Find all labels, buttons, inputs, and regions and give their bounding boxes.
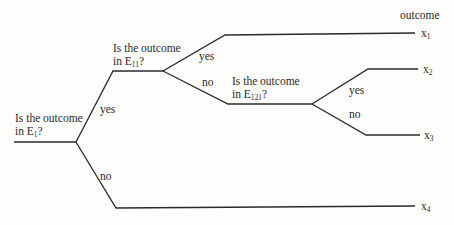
q1-no-branch — [76, 142, 415, 208]
outcome-x2: x2 — [423, 63, 433, 79]
question-e11-line1: Is the outcome — [113, 42, 181, 55]
question-e11-line2: in E11? — [113, 55, 181, 71]
question-e121-line2: in E121? — [232, 88, 300, 104]
q121-yes-branch — [312, 69, 418, 104]
question-e11: Is the outcome in E11? — [113, 42, 181, 71]
q121-no-branch — [312, 104, 420, 135]
decision-tree-diagram: outcome Is the outcome in E1? Is the out… — [0, 0, 454, 225]
q121-yes-label: yes — [349, 84, 364, 97]
question-e121: Is the outcome in E121? — [232, 75, 300, 104]
q11-no-label: no — [202, 76, 214, 89]
question-e1-line2: in E1? — [15, 125, 83, 141]
question-e1: Is the outcome in E1? — [15, 112, 83, 141]
outcome-header: outcome — [400, 9, 440, 22]
q121-no-label: no — [349, 108, 361, 121]
question-e121-line1: Is the outcome — [232, 75, 300, 88]
outcome-x1: x1 — [421, 27, 431, 43]
q1-no-label: no — [100, 170, 112, 183]
q1-yes-label: yes — [100, 103, 115, 116]
q1-yes-branch — [76, 71, 163, 142]
question-e1-line1: Is the outcome — [15, 112, 83, 125]
outcome-x3: x3 — [424, 129, 434, 145]
outcome-x4: x4 — [421, 200, 431, 216]
q11-yes-label: yes — [199, 50, 214, 63]
